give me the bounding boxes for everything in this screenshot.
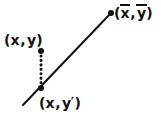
observed-x-symbol: x [10,32,19,48]
predicted-label-comma: , [55,95,62,111]
predicted-y-symbol: y [62,95,71,111]
mean-point-label: (x,y) [114,5,153,20]
predicted-label-close-paren: ) [75,95,81,111]
mean-label-close-paren: ) [146,5,152,21]
regression-line [23,13,111,105]
observed-point [38,48,44,54]
regression-residual-figure: (x,y) (x,y) (x,y′) [0,0,161,118]
observed-point-label: (x,y) [4,33,43,47]
observed-label-close-paren: ) [36,32,42,48]
x-bar-symbol: x [120,5,129,20]
predicted-x-symbol: x [45,95,54,111]
observed-label-comma: , [20,32,27,48]
predicted-point-label: (x,y′) [39,95,81,110]
mean-label-comma: , [130,5,137,21]
observed-y-symbol: y [27,32,36,48]
predicted-point [38,85,44,91]
y-bar-symbol: y [137,5,146,20]
